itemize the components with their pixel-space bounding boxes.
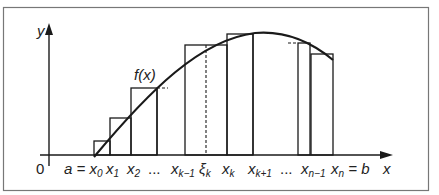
riemann-rectangles [94, 34, 333, 155]
tick-label-xk-1: xk−1 [170, 160, 195, 179]
tick-label-b: xn = b [330, 160, 370, 179]
strip-n-1 [298, 43, 310, 155]
tick-label-xk: xk [221, 160, 236, 179]
y-axis-arrow-icon [45, 23, 53, 35]
curve-label: f(x) [134, 66, 156, 83]
tick-label-xk+1: xk+1 [247, 160, 272, 179]
strip-k1 [227, 34, 253, 155]
strip-n [311, 54, 333, 155]
tick-label-dots-2: ... [280, 160, 293, 177]
tick-label-dots-1: ... [148, 160, 161, 177]
x-axis-arrow-icon [380, 151, 393, 159]
origin-label: 0 [36, 160, 44, 177]
tick-labels: a = x0 x1 x2 ... xk−1 ξk xk xk+1 ... xn−… [64, 160, 370, 179]
tick-label-xn-1: xn−1 [300, 160, 325, 179]
strip-2 [110, 118, 131, 155]
tick-label-x1: x1 [105, 160, 119, 179]
function-curve [94, 33, 333, 157]
riemann-sum-diagram: y x 0 f(x) a = x0 x1 x2 ... xk−1 ξk xk x… [0, 0, 439, 195]
strip-3 [131, 88, 157, 155]
tick-label-x2: x2 [126, 160, 141, 179]
x-axis-label: x [382, 160, 391, 177]
tick-label-a: a = x0 [64, 160, 103, 179]
tick-label-xi-k: ξk [199, 160, 212, 179]
y-axis-label: y [36, 22, 46, 39]
